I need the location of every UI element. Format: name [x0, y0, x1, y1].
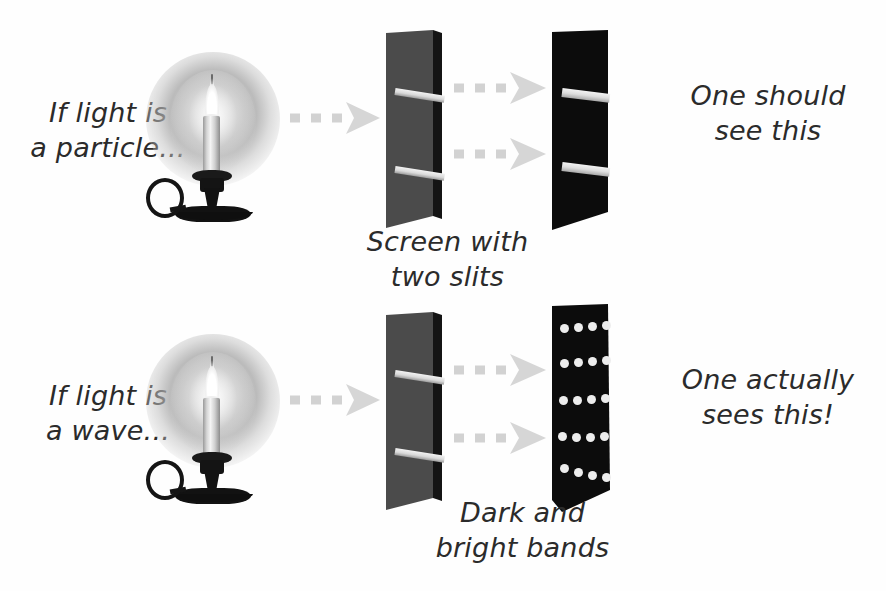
slit-screen-face	[386, 312, 442, 510]
dashed-right-arrow-icon	[288, 100, 384, 136]
fringe-dot	[600, 432, 609, 441]
fringe-dot	[586, 433, 595, 442]
fringe-dot	[574, 468, 583, 477]
fringe-dot	[574, 323, 583, 332]
fringe-dot	[602, 321, 611, 330]
fringe-dot	[588, 322, 597, 331]
dashed-right-arrow-icon	[452, 70, 550, 106]
candle-icon	[118, 332, 308, 522]
fringe-dot	[572, 433, 581, 442]
wave-conclusion-label: One actually sees this!	[650, 362, 886, 432]
detector-screen-row1	[552, 30, 610, 230]
dashed-right-arrow-icon	[452, 420, 550, 456]
fringe-dot	[560, 359, 569, 368]
figure-canvas: If light is a particle... Screen with tw…	[0, 0, 886, 591]
fringe-dot	[588, 357, 597, 366]
slit-screen-face	[386, 30, 442, 228]
fringe-dot	[602, 473, 611, 482]
fringe-dot	[574, 358, 583, 367]
fringe-dot	[558, 432, 567, 441]
dashed-right-arrow-icon	[452, 136, 550, 172]
dashed-right-arrow-icon	[288, 382, 384, 418]
slit-screen-caption: Screen with two slits	[330, 224, 565, 294]
particle-conclusion-label: One should see this	[655, 78, 881, 148]
fringe-dot	[602, 356, 611, 365]
slit-screen-row1	[386, 30, 442, 228]
candle-icon	[118, 50, 308, 240]
fringe-dot	[601, 394, 610, 403]
detector-caption: Dark and bright bands	[405, 495, 640, 565]
candle-holder-ring-handle	[146, 460, 184, 500]
detector-screen-face	[552, 30, 610, 230]
fringe-dot	[559, 396, 568, 405]
candle-holder-ring-handle	[146, 178, 184, 218]
fringe-dot	[587, 395, 596, 404]
fringe-dot	[588, 471, 597, 480]
detector-screen-row2	[552, 304, 612, 512]
slit-screen-row2	[386, 312, 442, 510]
fringe-dot	[573, 396, 582, 405]
dashed-right-arrow-icon	[452, 352, 550, 388]
fringe-dot	[560, 324, 569, 333]
fringe-dot	[560, 464, 569, 473]
